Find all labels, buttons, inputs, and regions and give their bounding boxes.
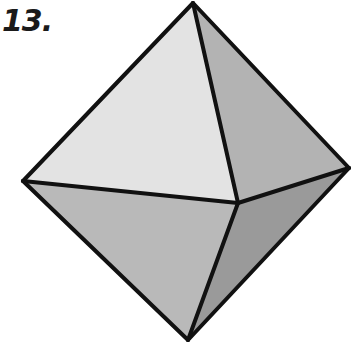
octahedron-faces (23, 3, 349, 340)
octahedron-figure (0, 0, 357, 342)
